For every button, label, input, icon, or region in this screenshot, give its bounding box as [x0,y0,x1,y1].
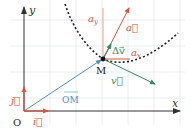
om-label: OM [62,95,79,105]
point-m [101,57,106,62]
delta-v-label: Δv⃗ [112,45,125,56]
unit-j-label: j⃗ [9,95,20,106]
y-axis-label: y [28,4,36,17]
unit-i-label: i⃗ [33,116,42,127]
a-y-label: ay [88,13,99,26]
point-m-label: M [96,65,106,76]
kinematics-diagram: y x O M i⃗ j⃗ OM a⃗ ay ax Δv⃗ v⃗ [0,0,192,133]
acceleration-label: a⃗ [126,22,138,33]
x-axis-label: x [172,97,179,110]
velocity-label: v⃗ [111,75,123,86]
origin-label: O [13,117,21,128]
a-x-label: ax [131,47,141,60]
